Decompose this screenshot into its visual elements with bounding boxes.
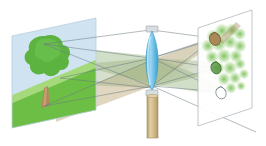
diagram-canvas [0,0,266,146]
lens-stand-post [147,96,158,138]
projection-screen [198,10,252,126]
lens-stand-post-cap [147,94,158,97]
optics-diagram-figure: Convex lens imaging diagram Tilted recta… [0,0,266,146]
object-scene-panel [10,14,100,132]
